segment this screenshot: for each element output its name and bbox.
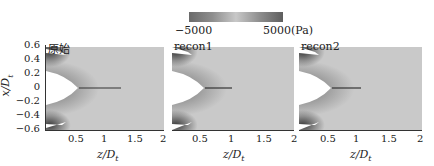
y-tick: −0.6 [12, 123, 40, 134]
panel-title: recon1 [174, 40, 213, 53]
y-tick: 0.4 [12, 53, 40, 64]
nozzle-shape-icon [299, 47, 422, 130]
heatmap-panel-recon1 [172, 47, 294, 130]
x-tick: 2 [160, 133, 166, 144]
x-tick: 0.5 [68, 133, 84, 144]
x-tick: 1 [101, 133, 107, 144]
x-tick: 1 [228, 133, 234, 144]
x-tick: 1 [353, 133, 359, 144]
x-tick: 1.5 [381, 133, 397, 144]
x-tick: 0.5 [320, 133, 336, 144]
colorbar [189, 12, 283, 22]
heatmap-panel-original [46, 47, 164, 130]
x-tick: 1.5 [127, 133, 143, 144]
y-tick: −0.2 [12, 95, 40, 106]
x-axis-label: z/Dt [97, 148, 119, 163]
panel-title: 原始 [48, 40, 70, 56]
nozzle-shape-icon [172, 47, 294, 130]
x-tick: 2 [417, 133, 423, 144]
x-tick: 1.5 [256, 133, 272, 144]
x-axis-label: z/Dt [223, 148, 245, 163]
colorbar-max-label: 5000(Pa) [263, 24, 313, 37]
y-tick: −0.4 [12, 109, 40, 120]
heatmap-panel-recon2 [299, 47, 422, 130]
nozzle-shape-icon [46, 47, 164, 130]
x-axis-line [46, 130, 164, 131]
x-axis-label: z/Dt [350, 148, 372, 163]
y-tick: 0.2 [12, 67, 40, 78]
colorbar-min-label: −5000 [175, 24, 212, 37]
x-tick: 0.5 [192, 133, 208, 144]
y-tick: 0.6 [12, 39, 40, 50]
x-tick: 2 [291, 133, 297, 144]
x-axis-line [172, 130, 294, 131]
x-axis-line [299, 130, 422, 131]
y-tick: 0 [12, 81, 40, 92]
panel-title: recon2 [301, 40, 340, 53]
